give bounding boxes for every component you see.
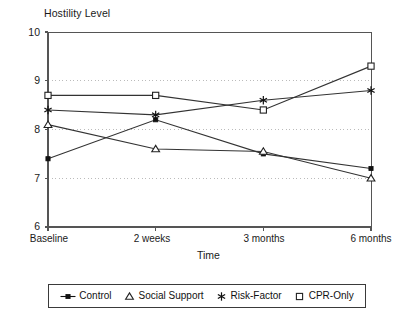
legend-item-label: CPR-Only [309,291,354,301]
data-point-3-1 [153,92,159,98]
plot-area [0,0,417,321]
series-line-0 [48,120,371,169]
legend-marker [296,293,302,299]
legend-marker [217,292,224,300]
series-line-3 [48,66,371,110]
legend-item-label: Control [79,291,111,301]
legend-item-label: Social Support [139,291,204,301]
legend-item-social-support[interactable]: Social Support [123,290,204,303]
asterisk-icon [215,290,228,303]
legend-marker [125,292,133,298]
legend-item-control[interactable]: Control [60,290,111,303]
data-point-3-0 [45,92,51,98]
chart-figure: Hostility Level 10 9 8 7 6 Baseline 2 we… [0,0,417,321]
data-point-3-2 [260,107,266,113]
series-control [46,118,373,171]
chart-legend: ControlSocial SupportRisk-FactorCPR-Only [48,284,366,308]
legend-item-risk-factor[interactable]: Risk-Factor [215,290,282,303]
legend-marker [66,294,70,298]
open-square-icon [293,290,306,303]
data-point-0-3 [369,166,373,170]
series-social-support [44,121,375,181]
data-point-0-0 [46,157,50,161]
series-line-1 [48,125,371,179]
open-triangle-icon [123,290,136,303]
series-cpr-only [45,63,374,113]
filled-square-icon [60,290,76,303]
legend-item-cpr-only[interactable]: CPR-Only [293,290,354,303]
legend-item-label: Risk-Factor [231,291,282,301]
data-point-1-0 [44,121,52,127]
data-point-3-3 [368,63,374,69]
